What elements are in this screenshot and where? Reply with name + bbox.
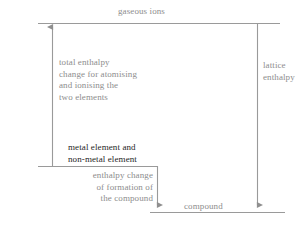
enthalpy-cycle-diagram: gaseous ions total enthalpy change for a… xyxy=(0,0,296,226)
gaseous-ions-label: gaseous ions xyxy=(118,6,165,18)
total-enthalpy-label: total enthalpy change for atomising and … xyxy=(59,57,137,103)
lattice-enthalpy-label: lattice enthalpy xyxy=(263,60,295,83)
metal-element-label: metal element and non-metal element xyxy=(68,142,137,165)
compound-label: compound xyxy=(184,201,223,213)
enthalpy-of-formation-label: enthalpy change of formation of the comp… xyxy=(71,170,153,205)
